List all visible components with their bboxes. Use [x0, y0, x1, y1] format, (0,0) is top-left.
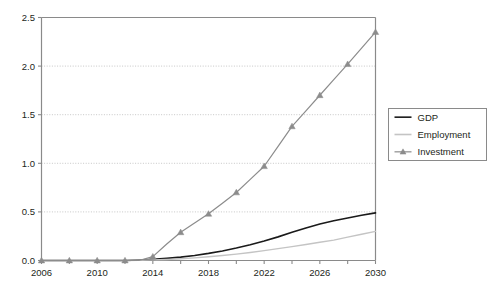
- y-tick-label: 0.5: [22, 206, 35, 217]
- x-tick-label: 2014: [142, 267, 163, 278]
- data-point-marker: [177, 229, 183, 235]
- y-tick-label: 2.0: [22, 61, 35, 72]
- y-tick-label: 0.0: [22, 255, 35, 266]
- series-markers: [38, 29, 378, 263]
- y-tick-label: 1.5: [22, 109, 35, 120]
- series-line-employment: [42, 231, 376, 260]
- series-line-gdp: [42, 213, 376, 261]
- legend: GDPEmploymentInvestment: [389, 109, 487, 161]
- chart-container: 0.00.51.01.52.02.5 200620102014201820222…: [0, 0, 487, 288]
- legend-label-gdp: GDP: [418, 112, 439, 123]
- x-tick-label: 2026: [309, 267, 330, 278]
- x-tick-label: 2022: [254, 267, 275, 278]
- axis-ticks: [38, 18, 376, 265]
- y-tick-label: 2.5: [22, 12, 35, 23]
- legend-label-investment: Investment: [418, 146, 465, 157]
- x-tick-label: 2010: [87, 267, 108, 278]
- x-tick-label: 2006: [31, 267, 52, 278]
- data-point-marker: [372, 29, 378, 35]
- plot-frame: [42, 18, 376, 261]
- x-axis-tick-labels: 2006201020142018202220262030: [31, 267, 386, 278]
- y-axis-tick-labels: 0.00.51.01.52.02.5: [22, 12, 35, 266]
- y-tick-label: 1.0: [22, 158, 35, 169]
- grid-lines: [42, 18, 376, 212]
- x-tick-label: 2018: [198, 267, 219, 278]
- line-chart: 0.00.51.01.52.02.5 200620102014201820222…: [0, 0, 487, 288]
- x-tick-label: 2030: [365, 267, 386, 278]
- legend-label-employment: Employment: [418, 129, 471, 140]
